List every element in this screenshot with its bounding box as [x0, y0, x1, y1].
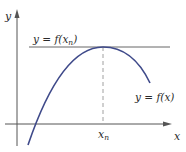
x-axis-label: x — [174, 130, 181, 143]
tangent-label: y = f(xn) — [32, 33, 77, 47]
curve-label: y = f(x) — [134, 91, 174, 103]
y-axis-arrow-icon — [15, 9, 20, 18]
diagram-canvas: y x y = f(xn) y = f(x) xn — [0, 0, 186, 152]
function-curve — [28, 47, 150, 145]
xn-label: xn — [98, 128, 109, 142]
figure: y x y = f(xn) y = f(x) xn — [0, 0, 186, 152]
y-axis-label: y — [4, 10, 12, 23]
x-axis-arrow-icon — [163, 122, 172, 127]
